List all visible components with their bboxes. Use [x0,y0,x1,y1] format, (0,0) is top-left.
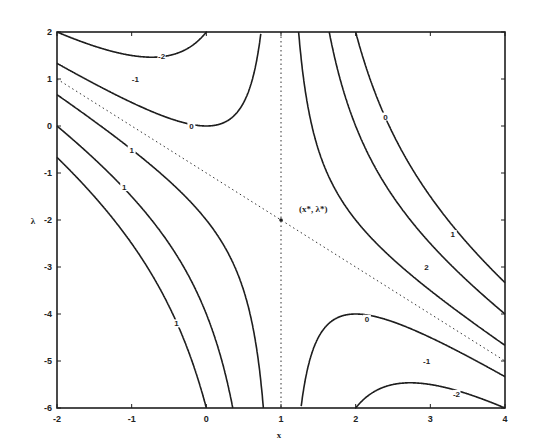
contour-level-label: -1 [132,75,140,84]
contour-level-label: 1 [122,183,127,192]
contour-level-label: -1 [423,357,431,366]
x-tick-label: 4 [502,414,507,424]
contour-level-label: 0 [365,315,370,324]
contour-level-label: -2 [158,52,166,61]
contour-level-label: 0 [383,113,388,122]
contour-line [57,126,233,408]
contour-level-label: 0 [189,122,194,131]
contour-level-label: 1 [451,230,456,239]
contour-level-label: 1 [129,146,134,155]
x-tick-label: 0 [204,414,209,424]
contour-line [299,32,505,345]
y-tick-label: -6 [44,403,52,413]
contour-line [57,34,261,126]
y-tick-label: -4 [44,309,52,319]
contour-line [57,95,263,408]
x-tick-label: 3 [428,414,433,424]
y-tick-label: 0 [47,121,52,131]
y-axis-label: λ [31,216,36,226]
contour-level-label: 2 [424,263,429,272]
contour-level-label: -2 [453,390,461,399]
saddle-point-marker [279,218,283,222]
contour-line [301,314,505,406]
x-tick-label: 2 [353,414,358,424]
y-tick-label: -3 [44,262,52,272]
contour-level-label: 1 [174,319,179,328]
x-tick-label: 1 [278,414,283,424]
y-tick-label: -2 [44,215,52,225]
y-tick-label: -1 [44,168,52,178]
contour-plot: -2-101234210-1-2-3-4-5-6 -2-101110120-1-… [0,0,534,448]
contour-labels: -2-101110120-1-2 [120,52,460,399]
x-tick-label: -1 [128,414,136,424]
x-axis-label: x [277,430,282,440]
contour-line [329,32,505,314]
saddle-point-label: (x*, λ*) [299,204,327,214]
x-tick-label: -2 [53,414,61,424]
y-tick-label: 1 [47,74,52,84]
axis-ticks: -2-101234210-1-2-3-4-5-6 [44,27,508,424]
y-tick-label: -5 [44,356,52,366]
y-tick-label: 2 [47,27,52,37]
